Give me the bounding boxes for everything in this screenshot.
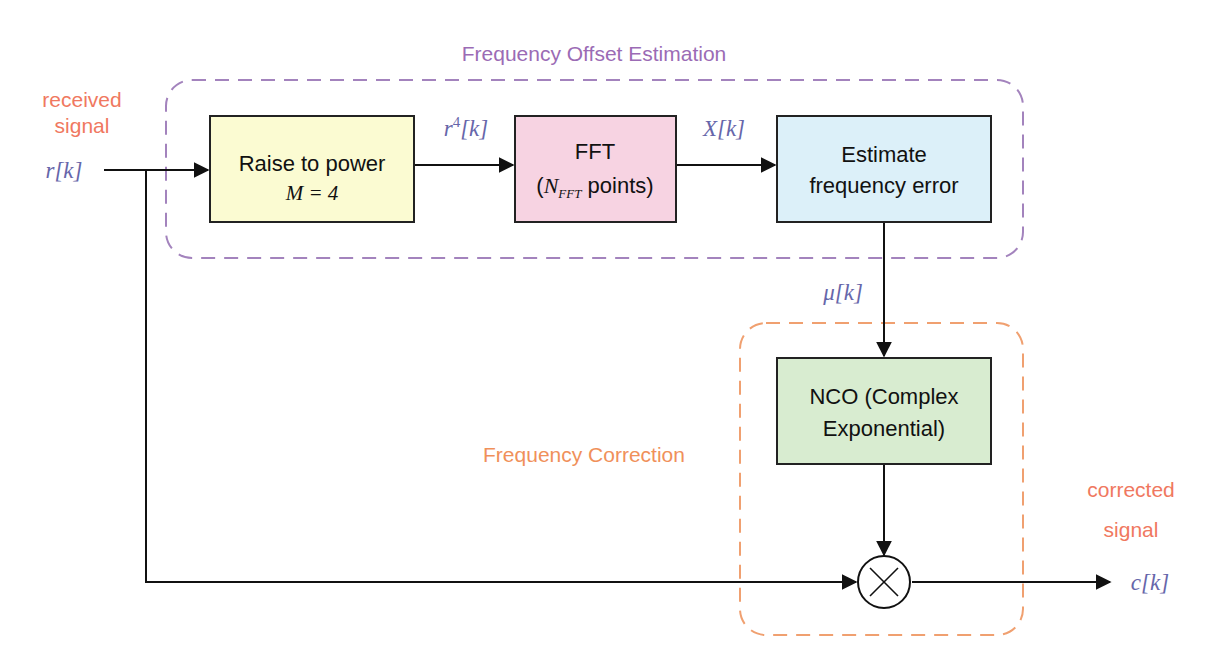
fft-label: FFT — [575, 139, 615, 164]
signal-mu-label: μ[k] — [822, 280, 863, 305]
nco-label-line2: Exponential) — [823, 416, 945, 441]
nco-block — [777, 358, 991, 464]
estimate-label-line1: Estimate — [841, 142, 927, 167]
input-caption-line2: signal — [55, 114, 110, 137]
output-caption-line1: corrected — [1087, 478, 1175, 501]
raise-power-label: Raise to power — [239, 151, 386, 176]
output-caption-line2: signal — [1104, 518, 1159, 541]
fft-block — [515, 116, 676, 222]
output-symbol: c[k] — [1131, 570, 1169, 595]
estimate-block — [777, 116, 991, 222]
estimation-group-title: Frequency Offset Estimation — [462, 42, 727, 65]
fft-points-label: (NFFT points) — [536, 173, 653, 201]
wire-bypass — [146, 170, 856, 582]
block-diagram: Frequency Offset Estimation Frequency Co… — [0, 0, 1221, 660]
nco-label-line1: NCO (Complex — [809, 384, 958, 409]
input-symbol: r[k] — [45, 158, 82, 183]
input-caption-line1: received — [42, 88, 121, 111]
raise-power-param: M = 4 — [285, 181, 339, 205]
estimate-label-line2: frequency error — [809, 173, 958, 198]
correction-group-title: Frequency Correction — [483, 443, 685, 466]
signal-r4-label: r4[k] — [444, 114, 489, 141]
signal-X-label: X[k] — [702, 116, 745, 141]
